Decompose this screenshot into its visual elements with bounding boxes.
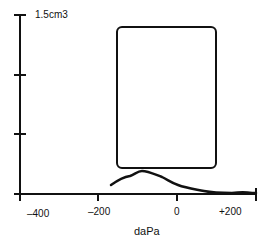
x-tick-label-minus200: –200 <box>88 206 110 217</box>
y-unit-label: 1.5cm3 <box>35 9 68 20</box>
x-axis-label: daPa <box>134 225 160 237</box>
x-tick-label-plus200: +200 <box>219 206 242 217</box>
tympanogram-curve <box>111 171 256 193</box>
normal-range-box <box>117 27 216 168</box>
x-tick-label-minus400: –400 <box>27 208 49 219</box>
x-tick-label-0: 0 <box>174 206 180 217</box>
